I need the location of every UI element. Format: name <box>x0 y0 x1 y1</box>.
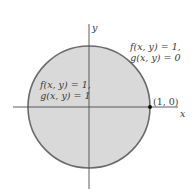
inside-g-value: g(x, y) = 1 <box>40 90 91 101</box>
unit-disk-diagram: y x (1, 0) f(x, y) = 1, g(x, y) = 0 f(x,… <box>0 0 196 195</box>
outside-f-value: f(x, y) = 1, <box>130 41 181 52</box>
inside-region-label: f(x, y) = 1, g(x, y) = 1 <box>40 79 91 101</box>
y-axis-label: y <box>92 22 97 33</box>
point-marker <box>148 105 152 109</box>
inside-f-value: f(x, y) = 1, <box>40 79 91 90</box>
outside-region-label: f(x, y) = 1, g(x, y) = 0 <box>130 41 181 63</box>
point-label: (1, 0) <box>153 96 179 107</box>
outside-g-value: g(x, y) = 0 <box>130 52 181 63</box>
x-axis-label: x <box>180 108 185 119</box>
